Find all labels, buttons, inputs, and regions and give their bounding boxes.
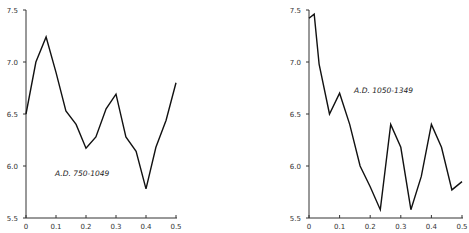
y-tick-label: 5.5 xyxy=(290,215,301,223)
x-tick-label: 0.3 xyxy=(110,223,121,231)
chart-panel-750-1049: 5.56.06.57.07.500.10.20.30.40.5A.D. 750-… xyxy=(7,7,182,232)
series-line xyxy=(309,14,462,210)
y-tick-label: 7.5 xyxy=(290,7,301,15)
x-tick-label: 0.2 xyxy=(80,223,91,231)
chart-panel-1050-1349: 5.56.06.57.07.500.10.20.30.40.5A.D. 1050… xyxy=(290,7,468,232)
y-tick-label: 5.5 xyxy=(7,215,18,223)
y-tick-label: 7.0 xyxy=(7,59,18,67)
x-tick-label: 0.5 xyxy=(456,223,467,231)
x-tick-label: 0.1 xyxy=(50,223,61,231)
y-tick-label: 6.5 xyxy=(290,111,301,119)
x-tick-label: 0.1 xyxy=(334,223,345,231)
y-tick-label: 7.5 xyxy=(7,7,18,15)
x-tick-label: 0.5 xyxy=(170,223,181,231)
y-tick-label: 6.0 xyxy=(7,163,18,171)
chart-figure: 5.56.06.57.07.500.10.20.30.40.5A.D. 750-… xyxy=(0,0,469,233)
x-tick-label: 0.4 xyxy=(140,223,152,231)
series-annotation: A.D. 1050-1349 xyxy=(353,86,413,95)
y-tick-label: 6.5 xyxy=(7,111,18,119)
series-annotation: A.D. 750-1049 xyxy=(54,169,110,178)
x-tick-label: 0 xyxy=(307,223,311,231)
x-tick-label: 0 xyxy=(24,223,28,231)
y-tick-label: 7.0 xyxy=(290,59,301,67)
x-tick-label: 0.3 xyxy=(395,223,406,231)
series-line xyxy=(26,37,176,189)
x-tick-label: 0.4 xyxy=(426,223,438,231)
x-tick-label: 0.2 xyxy=(365,223,376,231)
y-tick-label: 6.0 xyxy=(290,163,301,171)
